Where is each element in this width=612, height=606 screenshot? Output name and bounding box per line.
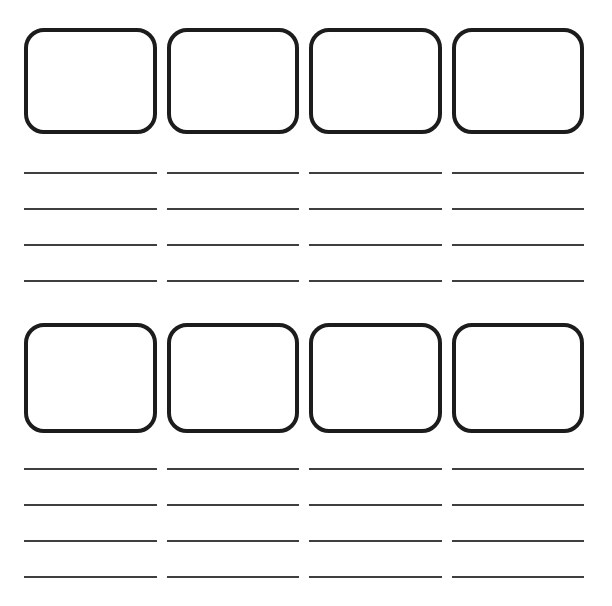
- storyboard-frame-box: [309, 323, 442, 433]
- writing-line: [309, 208, 442, 210]
- writing-line: [309, 576, 442, 578]
- writing-lines-group: [309, 172, 442, 282]
- writing-lines-group: [24, 468, 157, 578]
- storyboard-cell: [309, 323, 442, 578]
- writing-line: [167, 280, 300, 282]
- storyboard-frame-box: [452, 28, 585, 134]
- writing-line: [452, 280, 585, 282]
- storyboard-frame-box: [24, 323, 157, 433]
- storyboard-frame-box: [452, 323, 585, 433]
- writing-line: [167, 576, 300, 578]
- storyboard-cell: [452, 28, 585, 282]
- storyboard-cell: [24, 28, 157, 282]
- writing-line: [24, 504, 157, 506]
- storyboard-section-bottom: [24, 323, 584, 578]
- writing-lines-group: [309, 468, 442, 578]
- writing-line: [452, 576, 585, 578]
- writing-line: [309, 540, 442, 542]
- writing-lines-group: [452, 172, 585, 282]
- storyboard-cell: [452, 323, 585, 578]
- writing-line: [167, 172, 300, 174]
- writing-line: [24, 280, 157, 282]
- writing-line: [24, 468, 157, 470]
- writing-lines-group: [452, 468, 585, 578]
- writing-lines-group: [167, 172, 300, 282]
- writing-line: [452, 244, 585, 246]
- writing-line: [167, 468, 300, 470]
- writing-line: [309, 280, 442, 282]
- writing-line: [309, 504, 442, 506]
- storyboard-frame-box: [167, 323, 300, 433]
- storyboard-frame-box: [24, 28, 157, 134]
- writing-line: [452, 540, 585, 542]
- storyboard-cell: [167, 28, 300, 282]
- writing-line: [452, 468, 585, 470]
- writing-line: [167, 540, 300, 542]
- storyboard-cell: [24, 323, 157, 578]
- writing-lines-group: [24, 172, 157, 282]
- writing-line: [24, 576, 157, 578]
- storyboard-frame-box: [309, 28, 442, 134]
- writing-line: [452, 208, 585, 210]
- storyboard-frame-box: [167, 28, 300, 134]
- writing-line: [167, 208, 300, 210]
- storyboard-cell: [167, 323, 300, 578]
- writing-line: [24, 208, 157, 210]
- writing-line: [309, 172, 442, 174]
- writing-line: [309, 468, 442, 470]
- storyboard-cell: [309, 28, 442, 282]
- storyboard-section-top: [24, 28, 584, 282]
- writing-line: [309, 244, 442, 246]
- writing-line: [452, 504, 585, 506]
- writing-line: [24, 172, 157, 174]
- writing-line: [452, 172, 585, 174]
- writing-line: [24, 540, 157, 542]
- storyboard-template-page: [0, 0, 612, 606]
- writing-lines-group: [167, 468, 300, 578]
- writing-line: [167, 504, 300, 506]
- writing-line: [24, 244, 157, 246]
- writing-line: [167, 244, 300, 246]
